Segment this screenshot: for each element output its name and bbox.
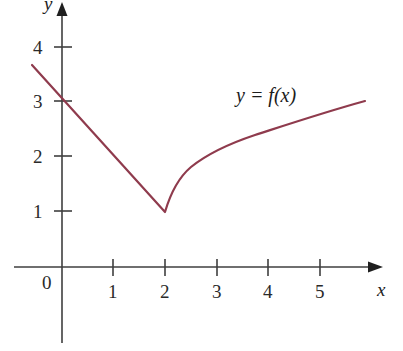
y-tick-label-1: 1	[33, 202, 43, 221]
x-tick-label-3: 3	[212, 282, 222, 301]
curve-equation-label: y = f(x)	[236, 85, 296, 105]
x-axis-label: x	[377, 280, 385, 299]
y-axis-arrow-icon	[57, 2, 68, 16]
origin-label: 0	[42, 273, 52, 292]
x-tick-label-2: 2	[160, 282, 170, 301]
x-tick-label-4: 4	[263, 282, 273, 301]
y-tick-label-4: 4	[33, 38, 43, 57]
y-axis-label: y	[44, 0, 52, 13]
function-graph-figure: 0 1 2 3 4 5 4 3 2 1 x y y = f(x)	[0, 0, 403, 351]
y-tick-label-3: 3	[33, 92, 43, 111]
y-tick-label-2: 2	[33, 147, 43, 166]
x-tick-label-5: 5	[315, 282, 325, 301]
x-tick-label-1: 1	[108, 282, 118, 301]
function-curve	[32, 65, 365, 212]
plot-canvas	[0, 0, 403, 351]
x-axis-arrow-icon	[368, 262, 383, 273]
y-tick-marks	[54, 47, 72, 211]
